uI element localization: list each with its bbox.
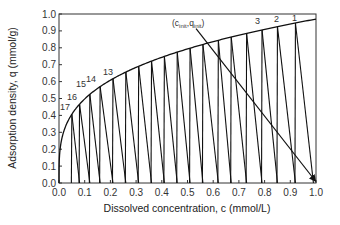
stage-line [139, 66, 152, 183]
y-tick-label: 0.5 [42, 93, 56, 104]
x-tick-label: 0.8 [258, 187, 272, 198]
init-point-annotation: (cinit,qinit) [172, 18, 205, 29]
stage-line [112, 79, 113, 183]
stage-line [218, 40, 231, 183]
stage-line [262, 30, 263, 183]
stage-line [100, 87, 101, 183]
stage-label-14: 14 [86, 74, 96, 84]
stage-line [277, 27, 278, 183]
y-tick-label: 0.7 [42, 59, 56, 70]
stage-line [164, 56, 165, 183]
stage-line [89, 94, 90, 183]
stage-label-15: 15 [76, 79, 86, 89]
y-tick-label: 0.8 [42, 42, 56, 53]
stage-line [152, 61, 165, 183]
y-tick-label: 0.4 [42, 110, 56, 121]
adsorption-stage-chart: 0.00.10.20.30.40.50.60.70.80.91.0 0.00.1… [0, 0, 340, 225]
stage-line [177, 52, 178, 183]
stage-line [71, 114, 72, 183]
stage-line [246, 33, 247, 183]
stage-line [177, 52, 190, 183]
y-tick-label: 0.2 [42, 144, 56, 155]
x-tick-label: 0.6 [206, 187, 220, 198]
x-tick-label: 1.0 [309, 187, 323, 198]
stage-line [262, 30, 277, 183]
stage-line [231, 37, 246, 183]
stage-line [100, 87, 113, 183]
y-tick-label: 1.0 [42, 9, 56, 20]
y-tick-label: 0.9 [42, 25, 56, 36]
stage-line [79, 104, 80, 183]
y-axis-title: Adsorption density, q (mmol/g) [6, 27, 18, 169]
stage-line [164, 56, 177, 183]
x-tick-label: 0.0 [52, 187, 66, 198]
stage-label-2: 2 [274, 14, 279, 24]
x-tick-label: 0.7 [232, 187, 246, 198]
stage-line [203, 44, 218, 183]
stage-line [90, 94, 100, 183]
stage-label-3: 3 [255, 16, 260, 26]
stage-line [126, 72, 139, 183]
stage-line [277, 27, 295, 183]
stage-label-17: 17 [60, 102, 70, 112]
y-tick-label: 0.6 [42, 76, 56, 87]
stage-line [80, 104, 90, 183]
y-tick-label: 0.3 [42, 127, 56, 138]
stage-line [72, 114, 80, 183]
stage-line [190, 48, 191, 183]
stage-line [295, 23, 296, 183]
x-tick-label: 0.4 [155, 187, 169, 198]
stage-line [190, 48, 203, 183]
x-tick-label: 0.1 [78, 187, 92, 198]
x-tick-label: 0.3 [129, 187, 143, 198]
operating-line [196, 29, 315, 181]
stage-line [151, 61, 152, 183]
stage-label-1: 1 [292, 13, 297, 23]
x-tick-label: 0.2 [103, 187, 117, 198]
stage-label-13: 13 [103, 67, 113, 77]
x-axis-title: Dissolved concentration, c (mmol/L) [104, 202, 271, 214]
stage-label-16: 16 [67, 92, 77, 102]
stage-line [202, 44, 203, 183]
y-tick-label: 0.1 [42, 161, 56, 172]
x-tick-label: 0.5 [181, 187, 195, 198]
x-tick-label: 0.9 [283, 187, 297, 198]
stage-line [247, 33, 262, 183]
stage-line [113, 79, 126, 183]
stage-line [138, 66, 139, 183]
stage-line [231, 37, 232, 183]
stage-line [125, 72, 126, 183]
stage-line [218, 40, 219, 183]
